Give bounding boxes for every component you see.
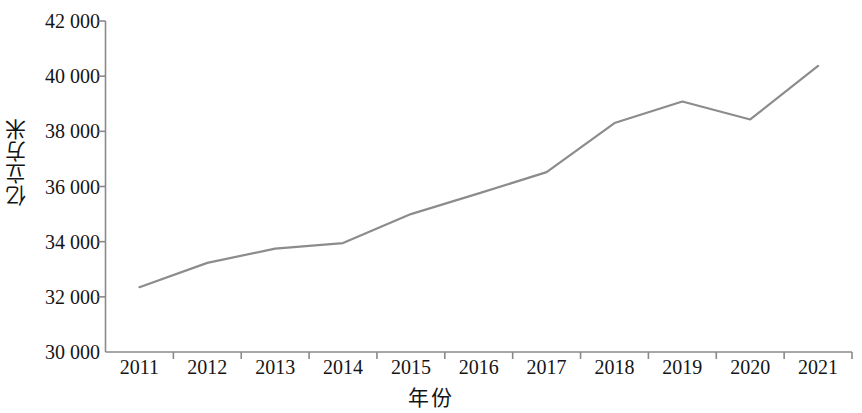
data-series-line	[139, 66, 818, 287]
line-chart: 亿立方米 年份 30 00032 00034 00036 00038 00040…	[0, 0, 862, 413]
plot-area	[0, 0, 862, 413]
